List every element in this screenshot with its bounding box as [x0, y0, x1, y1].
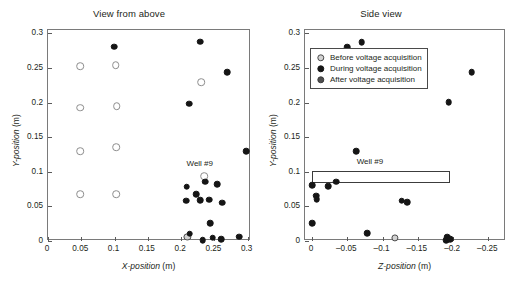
- y-tick-label: 0.05: [274, 201, 300, 210]
- y-tick-mark: [305, 206, 309, 207]
- data-point-open: [76, 147, 84, 155]
- data-point-during: [236, 233, 243, 240]
- data-point-during: [364, 230, 371, 237]
- data-point-during: [186, 230, 193, 237]
- data-point-open: [113, 102, 121, 110]
- y-tick-mark: [48, 33, 52, 34]
- y-tick-mark: [305, 68, 309, 69]
- y-tick-label: 0.3: [17, 28, 43, 37]
- data-point-during: [468, 69, 475, 76]
- panel-title-right: Side view: [252, 8, 510, 19]
- data-point-open: [76, 104, 84, 112]
- x-tick-label: 0.3: [241, 244, 252, 253]
- annotation-well-9: Well #9: [186, 159, 213, 168]
- data-point-during: [209, 235, 216, 242]
- marker-dot: [317, 76, 324, 83]
- x-tick-label: 0: [309, 244, 314, 253]
- data-point-open: [112, 190, 120, 198]
- data-point-during: [218, 236, 225, 243]
- y-tick-label: 0.15: [274, 132, 300, 141]
- y-tick-mark: [48, 68, 52, 69]
- data-point-during: [313, 196, 320, 203]
- x-axis-title-left: X-position (m): [122, 261, 176, 271]
- data-point-during: [445, 99, 452, 106]
- data-point-during: [197, 197, 204, 204]
- legend-label: During voltage acquisition: [330, 63, 422, 74]
- legend-marker-before-icon: [315, 52, 326, 63]
- y-tick-label: 0.25: [274, 63, 300, 72]
- data-point-during: [207, 220, 214, 227]
- x-tick-label: –0.25: [477, 244, 498, 253]
- data-point-open: [112, 143, 120, 151]
- x-tick-label: –0.1: [374, 244, 390, 253]
- data-point-during: [243, 148, 250, 155]
- x-tick-label: –0.2: [444, 244, 460, 253]
- x-tick-label: 0.2: [174, 244, 185, 253]
- data-point-open: [76, 62, 84, 70]
- x-tick-mark: [383, 237, 384, 241]
- y-tick-mark: [305, 137, 309, 138]
- panel-side-view: Side view Z-position (m) Y-position (m) …: [252, 0, 510, 285]
- panel-view-from-above: View from above X-position (m) Y-positio…: [0, 0, 258, 285]
- data-point-during: [447, 236, 454, 243]
- data-point-during: [353, 148, 360, 155]
- x-tick-mark: [181, 237, 182, 241]
- y-tick-mark: [305, 103, 309, 104]
- data-point-during: [214, 181, 221, 188]
- legend-item-during[interactable]: During voltage acquisition: [315, 63, 422, 74]
- x-tick-mark: [312, 237, 313, 241]
- data-point-during: [309, 220, 316, 227]
- x-tick-mark: [115, 237, 116, 241]
- data-point-open: [112, 61, 120, 69]
- y-tick-label: 0.15: [17, 132, 43, 141]
- y-tick-label: 0.2: [17, 97, 43, 106]
- x-tick-mark: [148, 237, 149, 241]
- data-point-open: [197, 78, 205, 86]
- x-tick-label: 0: [45, 244, 50, 253]
- y-tick-mark: [48, 206, 52, 207]
- legend-item-after[interactable]: After voltage acquisition: [315, 74, 422, 85]
- data-point-during: [309, 182, 316, 189]
- x-axis-title-right: Z-position (m): [378, 261, 431, 271]
- x-tick-mark: [81, 237, 82, 241]
- x-tick-mark: [453, 237, 454, 241]
- x-tick-mark: [488, 237, 489, 241]
- data-point-during: [197, 38, 204, 45]
- data-point-during: [111, 43, 118, 50]
- marker-dot: [317, 54, 324, 61]
- data-point-during: [183, 198, 190, 205]
- x-tick-label: 0.05: [72, 244, 88, 253]
- x-tick-label: 0.15: [139, 244, 155, 253]
- y-tick-mark: [305, 172, 309, 173]
- data-point-during: [186, 100, 193, 107]
- legend: Before voltage acquisitionDuring voltage…: [310, 48, 428, 89]
- marker-dot: [317, 65, 324, 72]
- data-point-during: [333, 179, 340, 186]
- data-point-during: [404, 199, 411, 206]
- data-point-during: [183, 183, 190, 190]
- y-tick-label: 0.3: [274, 28, 300, 37]
- data-point-during: [224, 69, 231, 76]
- y-tick-label: 0.1: [17, 166, 43, 175]
- legend-item-before[interactable]: Before voltage acquisition: [315, 52, 422, 63]
- y-tick-mark: [48, 241, 52, 242]
- y-tick-label: 0: [17, 236, 43, 245]
- x-tick-label: 0.25: [205, 244, 221, 253]
- plot-area-left: [47, 29, 250, 240]
- legend-marker-after-icon: [315, 74, 326, 85]
- y-tick-label: 0.1: [274, 166, 300, 175]
- data-point-during: [219, 199, 226, 206]
- y-tick-label: 0: [274, 236, 300, 245]
- x-tick-mark: [248, 237, 249, 241]
- y-tick-mark: [48, 103, 52, 104]
- y-tick-mark: [48, 137, 52, 138]
- data-point-open: [76, 190, 84, 198]
- data-point-during: [202, 178, 209, 185]
- annotation-well-9: Well #9: [357, 157, 384, 166]
- data-point-during: [199, 237, 206, 244]
- data-point-during: [206, 197, 213, 204]
- legend-marker-during-icon: [315, 63, 326, 74]
- x-tick-label: 0.1: [108, 244, 119, 253]
- y-tick-label: 0.2: [274, 97, 300, 106]
- y-tick-mark: [48, 172, 52, 173]
